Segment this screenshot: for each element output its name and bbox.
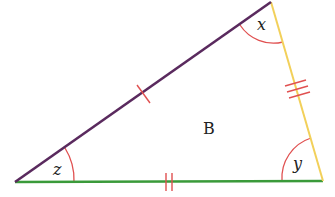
- triangle-diagram: x y z B: [0, 0, 335, 197]
- angle-label-z: z: [52, 160, 62, 179]
- angle-label-x: x: [257, 15, 266, 34]
- angle-label-y: y: [292, 154, 303, 173]
- side-left: [15, 2, 271, 182]
- angle-arc-z: [65, 148, 74, 182]
- triangle-label: B: [203, 119, 215, 138]
- side-bottom: [15, 181, 323, 182]
